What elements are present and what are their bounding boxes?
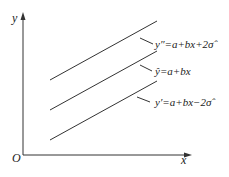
y-axis-arrow-icon <box>21 12 26 20</box>
regression-equation: ŷ=a+bx <box>154 65 191 77</box>
y-axis-label: y <box>11 11 18 25</box>
upper-bound-leader <box>140 38 153 44</box>
upper-bound-line <box>50 21 157 80</box>
regression-band-diagram: y x O y″=a+bx+2σ̂ ŷ=a+bx y′=a+bx−2σ̂ <box>0 0 229 177</box>
regression-leader <box>140 65 152 71</box>
origin-label: O <box>12 151 21 165</box>
lower-bound-line <box>50 81 157 140</box>
lower-bound-equation: y′=a+bx−2σ̂ <box>154 96 216 108</box>
regression-line <box>50 51 157 110</box>
lower-bound-leader <box>137 97 150 102</box>
upper-bound-equation: y″=a+bx+2σ̂ <box>154 38 219 50</box>
x-axis-label: x <box>180 153 187 167</box>
